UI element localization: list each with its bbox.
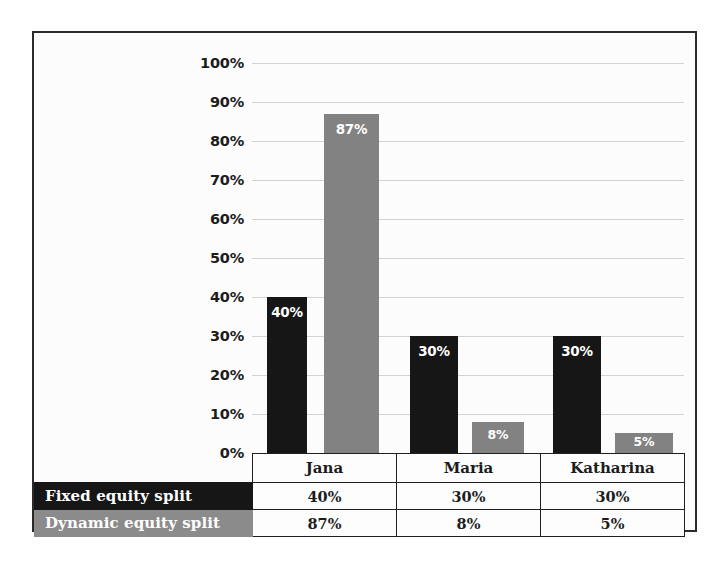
- gridline-80: [252, 141, 684, 142]
- bar-label-dynamic-katharina: 5%: [634, 434, 655, 449]
- bar-label-dynamic-maria: 8%: [488, 427, 509, 442]
- bar-dynamic-katharina[interactable]: 5%: [615, 433, 673, 453]
- legend-label-fixed-equity-split[interactable]: Fixed equity split: [35, 483, 253, 510]
- ytick-label-10: 10%: [124, 407, 244, 422]
- ytick-label-50: 50%: [124, 251, 244, 266]
- gridline-40: [252, 297, 684, 298]
- bar-fixed-jana[interactable]: 40%: [267, 297, 307, 453]
- table-cell-dynamic-jana: 87%: [253, 510, 397, 537]
- data-table: Jana Maria Katharina Fixed equity split …: [34, 453, 685, 537]
- ytick-label-30: 30%: [124, 329, 244, 344]
- table-cell-fixed-maria: 30%: [397, 483, 541, 510]
- table-header-maria: Maria: [397, 454, 541, 483]
- gridline-90: [252, 102, 684, 103]
- table-row-fixed-equity-split: Fixed equity split 40% 30% 30%: [35, 483, 685, 510]
- table-cell-dynamic-katharina: 5%: [541, 510, 685, 537]
- ytick-label-100: 100%: [124, 56, 244, 71]
- ytick-label-60: 60%: [124, 212, 244, 227]
- table-header-jana: Jana: [253, 454, 397, 483]
- bar-label-fixed-katharina: 30%: [561, 343, 593, 359]
- ytick-label-20: 20%: [124, 368, 244, 383]
- table-corner-blank: [35, 454, 253, 483]
- ytick-label-70: 70%: [124, 173, 244, 188]
- ytick-label-40: 40%: [124, 290, 244, 305]
- gridline-10: [252, 414, 684, 415]
- gridline-30: [252, 336, 684, 337]
- gridline-70: [252, 180, 684, 181]
- bar-label-dynamic-jana: 87%: [336, 121, 368, 137]
- table-header-katharina: Katharina: [541, 454, 685, 483]
- legend-label-dynamic-equity-split[interactable]: Dynamic equity split: [35, 510, 253, 537]
- bar-dynamic-jana[interactable]: 87%: [324, 114, 379, 453]
- gridline-60: [252, 219, 684, 220]
- table-cell-fixed-katharina: 30%: [541, 483, 685, 510]
- gridline-50: [252, 258, 684, 259]
- table-cell-fixed-jana: 40%: [253, 483, 397, 510]
- table-header-row: Jana Maria Katharina: [35, 454, 685, 483]
- ytick-label-90: 90%: [124, 95, 244, 110]
- table-row-dynamic-equity-split: Dynamic equity split 87% 8% 5%: [35, 510, 685, 537]
- bar-label-fixed-jana: 40%: [271, 304, 303, 320]
- ytick-label-80: 80%: [124, 134, 244, 149]
- bar-fixed-katharina[interactable]: 30%: [553, 336, 601, 453]
- table-cell-dynamic-maria: 8%: [397, 510, 541, 537]
- chart-frame: 100% 90% 80% 70% 60% 50% 40% 30% 20% 10%…: [32, 31, 697, 532]
- bar-label-fixed-maria: 30%: [418, 343, 450, 359]
- gridline-20: [252, 375, 684, 376]
- gridline-100: [252, 63, 684, 64]
- bar-fixed-maria[interactable]: 30%: [410, 336, 458, 453]
- bar-dynamic-maria[interactable]: 8%: [472, 422, 524, 453]
